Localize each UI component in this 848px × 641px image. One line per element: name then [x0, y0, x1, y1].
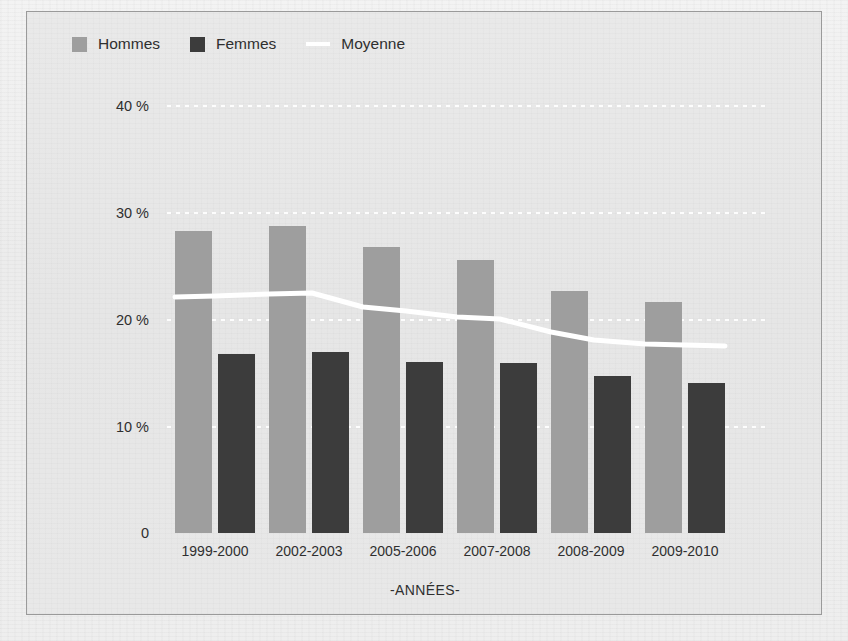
y-tick-label-40: 40 %: [89, 98, 149, 114]
gridline-10: [167, 426, 767, 428]
chart-figure: Hommes Femmes Moyenne 40 % 30 % 20 % 10 …: [26, 11, 822, 615]
moyenne-line-series: [27, 12, 823, 616]
bar-hommes-2008-2009[interactable]: [551, 291, 588, 533]
bar-femmes-2009-2010[interactable]: [688, 383, 725, 533]
y-tick-label-0: 0: [89, 525, 149, 541]
x-tick-label-2009-2010: 2009-2010: [652, 543, 719, 559]
legend-label: Femmes: [216, 35, 276, 53]
bar-hommes-2009-2010[interactable]: [645, 302, 682, 533]
bar-femmes-2008-2009[interactable]: [594, 376, 631, 533]
gridline-40: [167, 105, 767, 107]
legend-label: Hommes: [98, 35, 160, 53]
legend-swatch-icon: [190, 37, 205, 52]
legend-line-icon: [306, 42, 330, 46]
screenshot-root: les plus de la des ces ont été un dans l…: [0, 0, 848, 641]
bar-femmes-1999-2000[interactable]: [218, 354, 255, 533]
bar-hommes-2002-2003[interactable]: [269, 226, 306, 533]
moyenne-polyline: [175, 293, 725, 346]
bar-femmes-2007-2008[interactable]: [500, 363, 537, 533]
legend-item-moyenne[interactable]: Moyenne: [306, 35, 405, 53]
legend-item-hommes[interactable]: Hommes: [72, 35, 160, 53]
x-tick-label-2008-2009: 2008-2009: [558, 543, 625, 559]
figure-texture: [27, 12, 821, 614]
bar-hommes-2007-2008[interactable]: [457, 260, 494, 533]
x-tick-label-1999-2000: 1999-2000: [182, 543, 249, 559]
gridline-20: [167, 319, 767, 321]
plot-area: 40 % 30 % 20 % 10 % 0 1999-2000: [27, 12, 823, 616]
bar-femmes-2005-2006[interactable]: [406, 362, 443, 533]
y-tick-label-10: 10 %: [89, 419, 149, 435]
x-axis-title: -ANNÉES-: [27, 582, 823, 598]
legend-swatch-icon: [72, 37, 87, 52]
legend-label: Moyenne: [341, 35, 405, 53]
bar-hommes-1999-2000[interactable]: [175, 231, 212, 533]
x-tick-label-2007-2008: 2007-2008: [464, 543, 531, 559]
chart-legend: Hommes Femmes Moyenne: [72, 35, 435, 53]
gridline-30: [167, 212, 767, 214]
x-tick-label-2002-2003: 2002-2003: [276, 543, 343, 559]
y-tick-label-20: 20 %: [89, 312, 149, 328]
legend-item-femmes[interactable]: Femmes: [190, 35, 276, 53]
bar-femmes-2002-2003[interactable]: [312, 352, 349, 533]
bar-hommes-2005-2006[interactable]: [363, 247, 400, 533]
y-tick-label-30: 30 %: [89, 205, 149, 221]
x-tick-label-2005-2006: 2005-2006: [370, 543, 437, 559]
